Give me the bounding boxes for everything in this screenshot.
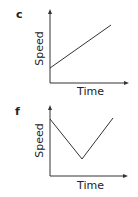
y-axis: [48, 105, 52, 176]
chart-panel-f: f Speed Time: [0, 97, 138, 197]
y-axis-arrow-icon: [48, 9, 52, 14]
y-axis-label-f: Speed: [34, 123, 45, 157]
x-axis-arrow-icon: [124, 81, 129, 85]
speed-line-c: [50, 25, 111, 68]
x-axis-label-f: Time: [77, 180, 104, 191]
x-axis-label-c: Time: [77, 86, 104, 97]
y-axis-label-c: Speed: [34, 31, 45, 65]
speed-line-f: [50, 118, 113, 159]
x-axis-arrow-icon: [123, 174, 128, 178]
y-axis: [48, 9, 52, 83]
y-axis-arrow-icon: [48, 105, 52, 110]
x-axis: [50, 174, 128, 178]
chart-f-plot: [0, 97, 138, 197]
chart-c-plot: [0, 0, 138, 97]
chart-panel-c: c Speed Time: [0, 0, 138, 97]
